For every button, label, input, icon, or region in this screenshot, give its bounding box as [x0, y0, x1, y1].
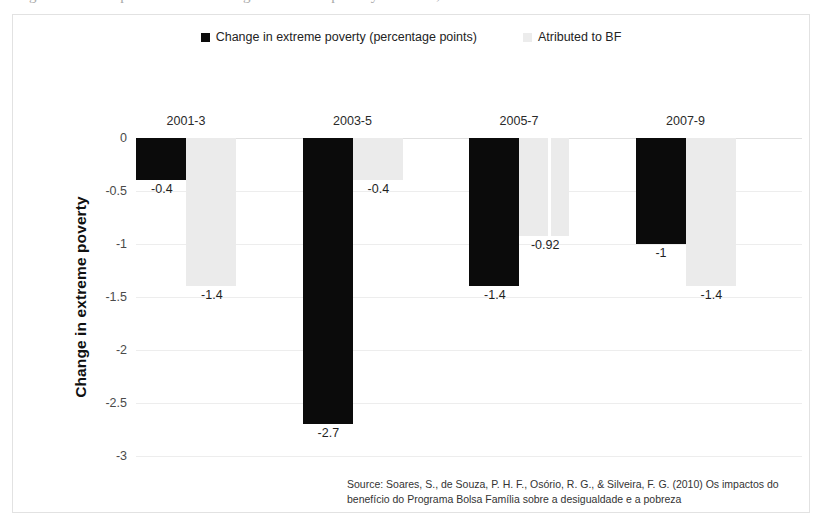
bar-group: 2005-7-1.4-0.92: [469, 138, 636, 456]
bar-seam-artifact: [548, 138, 551, 236]
bar-value-label: -0.4: [151, 182, 173, 196]
y-tick-label: -1: [116, 237, 127, 251]
bar-value-label: -1: [655, 246, 666, 260]
legend-label-change-in-extreme-poverty: Change in extreme poverty (percentage po…: [216, 30, 477, 44]
legend-entry-atributed-to-bf: Atributed to BF: [523, 30, 621, 44]
category-label: 2001-3: [136, 114, 236, 128]
cropped-caption-sliver: Figure 3. Decomposition of the change in…: [0, 0, 828, 11]
source-note-line-1: Source: Soares, S., de Souza, P. H. F., …: [347, 477, 799, 492]
legend-swatch-icon-light: [523, 33, 532, 42]
bar-value-label: -0.92: [531, 238, 560, 252]
legend-label-atributed-to-bf: Atributed to BF: [538, 30, 621, 44]
bar-value-label: -1.4: [701, 288, 723, 302]
legend-entry-change-in-extreme-poverty: Change in extreme poverty (percentage po…: [201, 30, 477, 44]
y-tick-label: -2.5: [105, 396, 127, 410]
source-note-line-2: benefício do Programa Bolsa Família sobr…: [347, 492, 799, 507]
gridline-neg3: -3: [136, 456, 802, 457]
cropped-caption-text: Figure 3. Decomposition of the change in…: [16, 0, 511, 4]
plot-area: 0-0.5-1-1.5-2-2.5-32001-3-0.4-1.42003-5-…: [136, 138, 802, 456]
category-label: 2003-5: [303, 114, 403, 128]
y-tick-label: -2: [116, 343, 127, 357]
y-tick-label: 0: [120, 131, 127, 145]
bar-value-label: -2.7: [318, 426, 340, 440]
y-axis-title-text: Change in extreme poverty: [72, 196, 90, 397]
bar-group: 2003-5-2.7-0.4: [303, 138, 470, 456]
category-label: 2007-9: [636, 114, 736, 128]
y-tick-label: -0.5: [105, 184, 127, 198]
bar-value-label: -1.4: [201, 288, 223, 302]
figure-frame: Change in extreme poverty (percentage po…: [12, 14, 810, 513]
bar-change[interactable]: -1.4: [469, 138, 519, 286]
source-note: Source: Soares, S., de Souza, P. H. F., …: [347, 477, 799, 507]
chart-legend: Change in extreme poverty (percentage po…: [13, 30, 809, 44]
y-axis-title: Change in extreme poverty: [71, 138, 91, 456]
bar-attributed[interactable]: -1.4: [186, 138, 236, 286]
bar-attributed[interactable]: -1.4: [686, 138, 736, 286]
bar-change[interactable]: -2.7: [303, 138, 353, 424]
category-label: 2005-7: [469, 114, 569, 128]
y-tick-label: -3: [116, 449, 127, 463]
legend-swatch-icon-dark: [201, 33, 210, 42]
bar-group: 2007-9-1-1.4: [636, 138, 803, 456]
y-tick-label: -1.5: [105, 290, 127, 304]
bar-attributed[interactable]: -0.4: [353, 138, 403, 180]
bar-value-label: -0.4: [368, 182, 390, 196]
bar-attributed[interactable]: -0.92: [519, 138, 569, 236]
bar-change[interactable]: -0.4: [136, 138, 186, 180]
bar-group: 2001-3-0.4-1.4: [136, 138, 303, 456]
bar-change[interactable]: -1: [636, 138, 686, 244]
bar-value-label: -1.4: [484, 288, 506, 302]
